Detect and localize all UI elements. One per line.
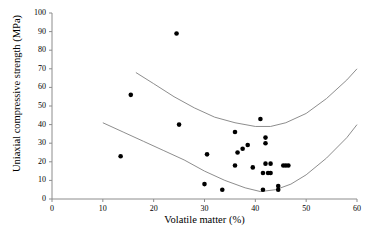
upper-bound-curve xyxy=(136,69,357,127)
data-point xyxy=(233,130,238,135)
y-axis-title: Uniaxial compressive strength (MPa) xyxy=(11,0,22,194)
data-point xyxy=(263,141,268,146)
plot-area xyxy=(0,0,373,236)
data-point xyxy=(268,171,273,176)
data-point xyxy=(177,122,182,127)
envelope-curves xyxy=(103,69,357,192)
data-point xyxy=(250,165,255,170)
data-point xyxy=(276,184,281,189)
data-point xyxy=(220,187,225,192)
data-point xyxy=(205,152,210,157)
data-point xyxy=(174,31,179,36)
data-point xyxy=(240,146,245,151)
data-points xyxy=(118,31,290,192)
lower-bound-curve xyxy=(103,123,357,192)
data-point xyxy=(202,182,207,187)
data-point xyxy=(233,163,238,168)
data-point xyxy=(258,117,263,122)
data-point xyxy=(261,171,266,176)
data-point xyxy=(118,154,123,159)
data-point xyxy=(235,150,240,155)
x-axis-title: Volatile matter (%) xyxy=(52,214,357,225)
data-point xyxy=(245,143,250,148)
data-point xyxy=(263,161,268,166)
data-point xyxy=(261,187,266,192)
data-point xyxy=(128,93,133,98)
scatter-chart: 0102030405060708090100 0102030405060 Uni… xyxy=(0,0,373,236)
data-point xyxy=(286,163,291,168)
data-point xyxy=(268,161,273,166)
data-point xyxy=(263,135,268,140)
